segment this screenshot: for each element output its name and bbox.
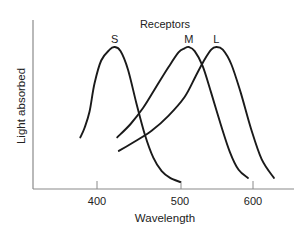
m-receptor-curve bbox=[117, 47, 248, 178]
m-peak-label: M bbox=[184, 33, 193, 45]
x-axis-label: Wavelength bbox=[135, 212, 195, 224]
absorption-chart: 400 500 600 Wavelength Light absorbed Re… bbox=[0, 0, 308, 233]
s-peak-label: S bbox=[111, 33, 118, 45]
y-axis-label: Light absorbed bbox=[15, 68, 27, 144]
s-receptor-curve bbox=[80, 47, 180, 182]
x-tick-label-500: 500 bbox=[171, 195, 189, 207]
x-tick-label-600: 600 bbox=[244, 195, 262, 207]
l-peak-label: L bbox=[213, 33, 219, 45]
l-receptor-curve bbox=[119, 47, 274, 178]
chart-title: Receptors bbox=[140, 18, 191, 30]
x-tick-label-400: 400 bbox=[88, 195, 106, 207]
